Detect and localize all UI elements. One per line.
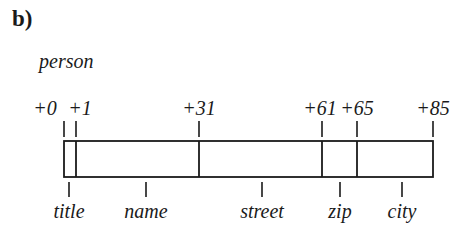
field-label-zip: zip	[328, 201, 351, 221]
offset-ticks	[64, 121, 433, 137]
struct-box	[64, 141, 433, 177]
field-label-name: name	[124, 201, 167, 221]
field-ticks	[69, 182, 402, 197]
field-label-street: street	[240, 201, 284, 221]
field-label-city: city	[388, 201, 417, 221]
field-label-title: title	[53, 201, 84, 221]
field-dividers	[76, 141, 357, 177]
